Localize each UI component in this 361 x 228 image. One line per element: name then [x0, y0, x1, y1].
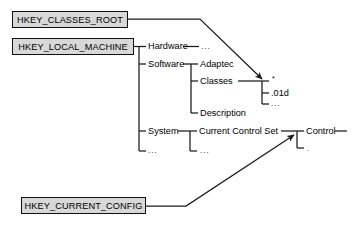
tree-label-software[interactable]: Software	[148, 60, 184, 69]
tree-label-description[interactable]: Description	[200, 109, 246, 118]
tree-label-classes-star[interactable]: *	[272, 75, 275, 82]
diagram-connector-lines	[0, 0, 361, 228]
node-box-hkey-current-config[interactable]: HKEY_CURRENT_CONFIG	[21, 197, 146, 214]
tree-label-current-control-set[interactable]: Current Control Set	[199, 127, 278, 136]
tree-label-hardware-ellipsis: ...	[201, 43, 211, 51]
node-box-hkey-local-machine[interactable]: HKEY_LOCAL_MACHINE	[12, 38, 134, 55]
node-box-hkey-classes-root[interactable]: HKEY_CLASSES_ROOT	[12, 11, 128, 28]
tree-label-hklm-ellipsis: ...	[148, 147, 158, 155]
tree-label-system[interactable]: System	[148, 127, 179, 136]
tree-label-classes[interactable]: Classes	[200, 77, 233, 86]
tree-label-classes-01d[interactable]: .01d	[271, 89, 289, 98]
tree-label-hardware[interactable]: Hardware	[148, 42, 188, 51]
line-current-config-to-ccs	[146, 135, 294, 206]
tree-label-classes-ellipsis: ...	[271, 100, 281, 108]
tree-label-system-ellipsis: ...	[200, 147, 210, 155]
tree-label-control[interactable]: Control	[306, 127, 336, 136]
tree-label-adaptec[interactable]: Adaptec	[200, 60, 234, 69]
tree-label-ccs-ellipsis: .	[307, 145, 309, 152]
registry-structure-diagram: HKEY_CLASSES_ROOT HKEY_LOCAL_MACHINE HKE…	[0, 0, 361, 228]
